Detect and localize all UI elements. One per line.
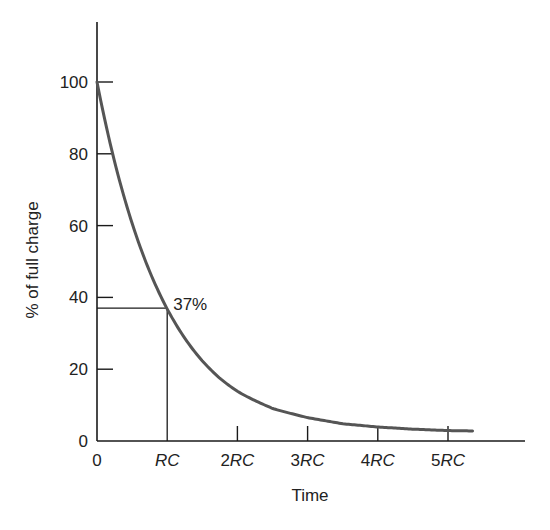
guide-lines-37 [97,308,167,441]
x-tick-label: RC [155,451,180,470]
x-tick-label: 2RC [220,451,255,470]
x-tick-label: 4RC [361,451,396,470]
y-ticks: 020406080100 [60,73,113,451]
discharge-curve [97,82,473,431]
x-ticks: 0RC2RC3RC4RC5RC [92,426,465,470]
y-tick-label: 0 [79,432,88,451]
x-tick-label: 3RC [291,451,326,470]
y-axis-title: % of full charge [23,201,42,318]
x-axis-title: Time [291,486,328,505]
x-tick-label: 0 [92,451,101,470]
y-tick-label: 100 [60,73,88,92]
discharge-chart: 020406080100 0RC2RC3RC4RC5RC 37% Time % … [0,0,550,530]
y-tick-label: 20 [69,360,88,379]
y-tick-label: 80 [69,145,88,164]
x-tick-label: 5RC [431,451,466,470]
y-tick-label: 60 [69,217,88,236]
y-tick-label: 40 [69,288,88,307]
annotation-37-percent: 37% [173,295,207,314]
